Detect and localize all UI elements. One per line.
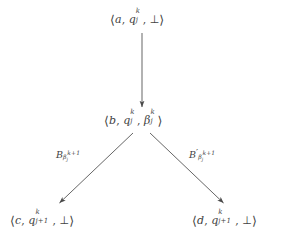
node-middle-comma-2: , [137, 114, 142, 127]
node-root-close-bracket: ⟩ [159, 12, 164, 27]
node-right-leaf-comma-2: , [235, 214, 240, 227]
node-middle-close-bracket: ⟩ [157, 113, 162, 128]
node-root: ⟨a, qkj, ⊥⟩ [110, 12, 164, 26]
node-middle-comma-1: , [116, 114, 121, 127]
node-middle-beta-scripts: kj [151, 113, 158, 124]
node-root-first: a [115, 13, 122, 26]
node-right-leaf-bottom-symbol: ⊥ [242, 214, 252, 227]
node-root-state-scripts: kj [136, 12, 143, 23]
configuration-tree-diagram: ⟨a, qkj, ⊥⟩ ⟨b, qkj, βkj⟩ ⟨c, qkj+1, ⊥⟩ … [0, 0, 282, 242]
node-right-leaf-comma-1: , [204, 214, 209, 227]
edge-label-left-exponent: k+1 [67, 150, 80, 156]
node-root-comma-1: , [122, 13, 127, 26]
node-right-leaf-close-bracket: ⟩ [252, 213, 257, 228]
node-right-leaf-state-scripts: kj+1 [218, 213, 235, 224]
node-middle: ⟨b, qkj, βkj⟩ [104, 113, 162, 127]
node-left-leaf: ⟨c, qkj+1, ⊥⟩ [10, 213, 74, 227]
edge-label-left-subscript: βjk+1 [63, 152, 82, 161]
edge-label-right: B′βjk+1 [189, 148, 217, 161]
node-left-leaf-comma-2: , [52, 214, 57, 227]
edge-label-right-base: B [189, 149, 196, 160]
node-root-bottom-symbol: ⊥ [150, 13, 160, 26]
node-left-leaf-comma-1: , [21, 214, 26, 227]
edge-label-left-base: B [56, 149, 63, 160]
edge-label-right-exponent: k+1 [202, 150, 215, 156]
node-left-leaf-close-bracket: ⟩ [69, 213, 74, 228]
node-root-state: q [129, 13, 136, 26]
node-root-comma-2: , [143, 13, 148, 26]
edge-middle-to-right [150, 133, 224, 203]
edge-label-right-subscript: βjk+1 [198, 152, 217, 161]
node-left-leaf-state-scripts: kj+1 [35, 213, 52, 224]
edge-middle-to-left [60, 133, 134, 203]
node-left-leaf-bottom-symbol: ⊥ [59, 214, 69, 227]
edge-label-left: Bβjk+1 [56, 148, 82, 161]
node-right-leaf: ⟨d, qkj+1, ⊥⟩ [192, 213, 257, 227]
node-middle-state-scripts: kj [130, 113, 137, 124]
